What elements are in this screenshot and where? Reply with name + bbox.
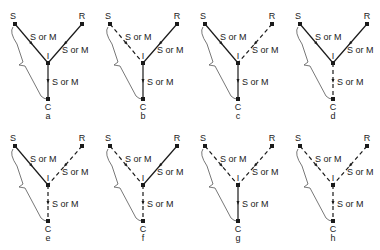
panel-f: SRICS or MS or MS or Mf: [105, 133, 184, 243]
edge-label-r-i: S or M: [347, 167, 374, 177]
edge-label-r-i: S or M: [157, 45, 184, 55]
edge-label-i-c: S or M: [337, 199, 364, 209]
node-label-i: I: [332, 51, 335, 61]
edge-label-i-c: S or M: [147, 199, 174, 209]
panel-caption: e: [45, 233, 50, 243]
edge-label-s-i: S or M: [30, 154, 57, 164]
node-s: [298, 22, 302, 26]
panel-caption: b: [140, 111, 145, 121]
node-label-r: R: [269, 133, 276, 143]
edge-label-s-i: S or M: [125, 154, 152, 164]
diagram-figure: SRICS or MS or MS or MaSRICS or MS or MS…: [0, 0, 380, 250]
node-label-r: R: [269, 11, 276, 21]
node-s: [108, 144, 112, 148]
node-c: [46, 219, 50, 223]
node-c: [331, 97, 335, 101]
arrow-icon: [237, 79, 240, 83]
node-c: [331, 219, 335, 223]
node-r: [175, 144, 179, 148]
edge-label-r-i: S or M: [62, 45, 89, 55]
arrow-icon: [332, 79, 335, 83]
node-i: [141, 183, 145, 187]
arrow-icon: [47, 201, 50, 205]
node-r: [80, 144, 84, 148]
node-s: [108, 22, 112, 26]
node-i: [331, 183, 335, 187]
node-label-i: I: [142, 51, 145, 61]
node-c: [236, 219, 240, 223]
node-label-s: S: [200, 11, 206, 21]
node-label-i: I: [47, 173, 50, 183]
panel-c: SRICS or MS or MS or Mc: [200, 11, 279, 121]
node-label-r: R: [79, 133, 86, 143]
node-i: [331, 61, 335, 65]
arrow-icon: [332, 201, 335, 205]
node-i: [46, 61, 50, 65]
panel-e: SRICS or MS or MS or Me: [10, 133, 89, 243]
edge-label-i-c: S or M: [52, 77, 79, 87]
node-i: [141, 61, 145, 65]
node-r: [270, 144, 274, 148]
node-s: [203, 22, 207, 26]
node-label-s: S: [10, 133, 16, 143]
edge-label-i-c: S or M: [147, 77, 174, 87]
node-label-s: S: [105, 11, 111, 21]
node-s: [203, 144, 207, 148]
edge-label-i-c: S or M: [337, 77, 364, 87]
node-label-r: R: [174, 133, 181, 143]
edge-label-s-i: S or M: [315, 154, 342, 164]
node-r: [175, 22, 179, 26]
panel-b: SRICS or MS or MS or Mb: [105, 11, 184, 121]
node-r: [270, 22, 274, 26]
node-r: [365, 144, 369, 148]
edge-label-r-i: S or M: [347, 45, 374, 55]
node-label-i: I: [237, 51, 240, 61]
node-i: [46, 183, 50, 187]
node-s: [13, 144, 17, 148]
node-i: [236, 61, 240, 65]
node-label-s: S: [105, 133, 111, 143]
edge-label-i-c: S or M: [242, 77, 269, 87]
node-s: [13, 22, 17, 26]
panel-a: SRICS or MS or MS or Ma: [10, 11, 89, 121]
node-c: [141, 97, 145, 101]
edge-label-r-i: S or M: [157, 167, 184, 177]
panel-d: SRICS or MS or MS or Md: [295, 11, 374, 121]
edge-label-i-c: S or M: [242, 199, 269, 209]
node-label-s: S: [295, 133, 301, 143]
panel-caption: g: [235, 233, 240, 243]
edge-label-r-i: S or M: [252, 167, 279, 177]
panel-h: SRICS or MS or MS or Mh: [295, 133, 374, 243]
edge-label-s-i: S or M: [220, 32, 247, 42]
node-label-i: I: [237, 173, 240, 183]
arrow-icon: [47, 79, 50, 83]
node-r: [365, 22, 369, 26]
node-label-r: R: [79, 11, 86, 21]
panel-caption: a: [45, 111, 50, 121]
edge-label-s-i: S or M: [30, 32, 57, 42]
node-label-r: R: [364, 11, 371, 21]
node-c: [46, 97, 50, 101]
panel-caption: h: [330, 233, 335, 243]
node-label-r: R: [174, 11, 181, 21]
edge-label-r-i: S or M: [252, 45, 279, 55]
arrow-icon: [237, 201, 240, 205]
edge-label-s-i: S or M: [315, 32, 342, 42]
node-label-r: R: [364, 133, 371, 143]
panel-g: SRICS or MS or MS or Mg: [200, 133, 279, 243]
node-label-i: I: [142, 173, 145, 183]
node-label-s: S: [200, 133, 206, 143]
node-label-i: I: [332, 173, 335, 183]
edge-label-i-c: S or M: [52, 199, 79, 209]
edge-label-r-i: S or M: [62, 167, 89, 177]
edge-label-s-i: S or M: [220, 154, 247, 164]
panel-caption: f: [142, 233, 145, 243]
node-r: [80, 22, 84, 26]
arrow-icon: [142, 79, 145, 83]
panel-caption: c: [236, 111, 241, 121]
node-label-s: S: [295, 11, 301, 21]
node-c: [236, 97, 240, 101]
node-s: [298, 144, 302, 148]
edge-label-s-i: S or M: [125, 32, 152, 42]
node-label-i: I: [47, 51, 50, 61]
